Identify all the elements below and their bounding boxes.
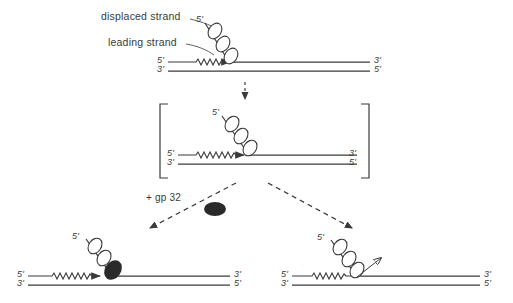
diagram-svg — [0, 0, 513, 303]
br-diagonal-5prime: 5' — [317, 232, 324, 242]
mid-right-5prime: 5' — [349, 157, 356, 167]
bl-left-3prime: 3' — [17, 278, 24, 288]
top-right-5prime: 5' — [374, 64, 381, 74]
top-left-3prime: 3' — [157, 64, 164, 74]
mid-diagonal-5prime: 5' — [212, 107, 219, 117]
mid-left-3prime: 3' — [167, 157, 174, 167]
panel-intermediate — [160, 104, 369, 178]
top-diagonal-5prime: 5' — [196, 14, 203, 24]
bl-diagonal-5prime: 5' — [72, 231, 79, 241]
panel-strand-release — [292, 237, 480, 285]
br-right-5prime: 5' — [484, 278, 491, 288]
panel-gp32-bound — [28, 236, 230, 285]
reagent-gp32-label: + gp 32 — [146, 192, 181, 203]
displaced-strand-label: displaced strand — [101, 10, 181, 22]
branch-arrow-right — [268, 183, 352, 228]
bracket-right — [361, 104, 369, 178]
figure-canvas: displaced strand leading strand + gp 32 … — [0, 0, 513, 303]
gp32-protein-blob — [204, 202, 226, 216]
br-left-3prime: 3' — [281, 278, 288, 288]
bl-right-5prime: 5' — [234, 278, 241, 288]
panel-initial-fork — [168, 21, 370, 71]
leading-strand-label: leading strand — [108, 36, 177, 48]
